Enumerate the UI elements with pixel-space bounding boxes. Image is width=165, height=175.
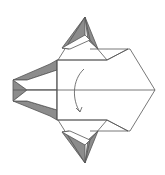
bottom-point-flap [58, 120, 107, 163]
top-point-flap [58, 17, 107, 60]
origami-figure [0, 0, 165, 175]
origami-diagram [0, 0, 165, 175]
